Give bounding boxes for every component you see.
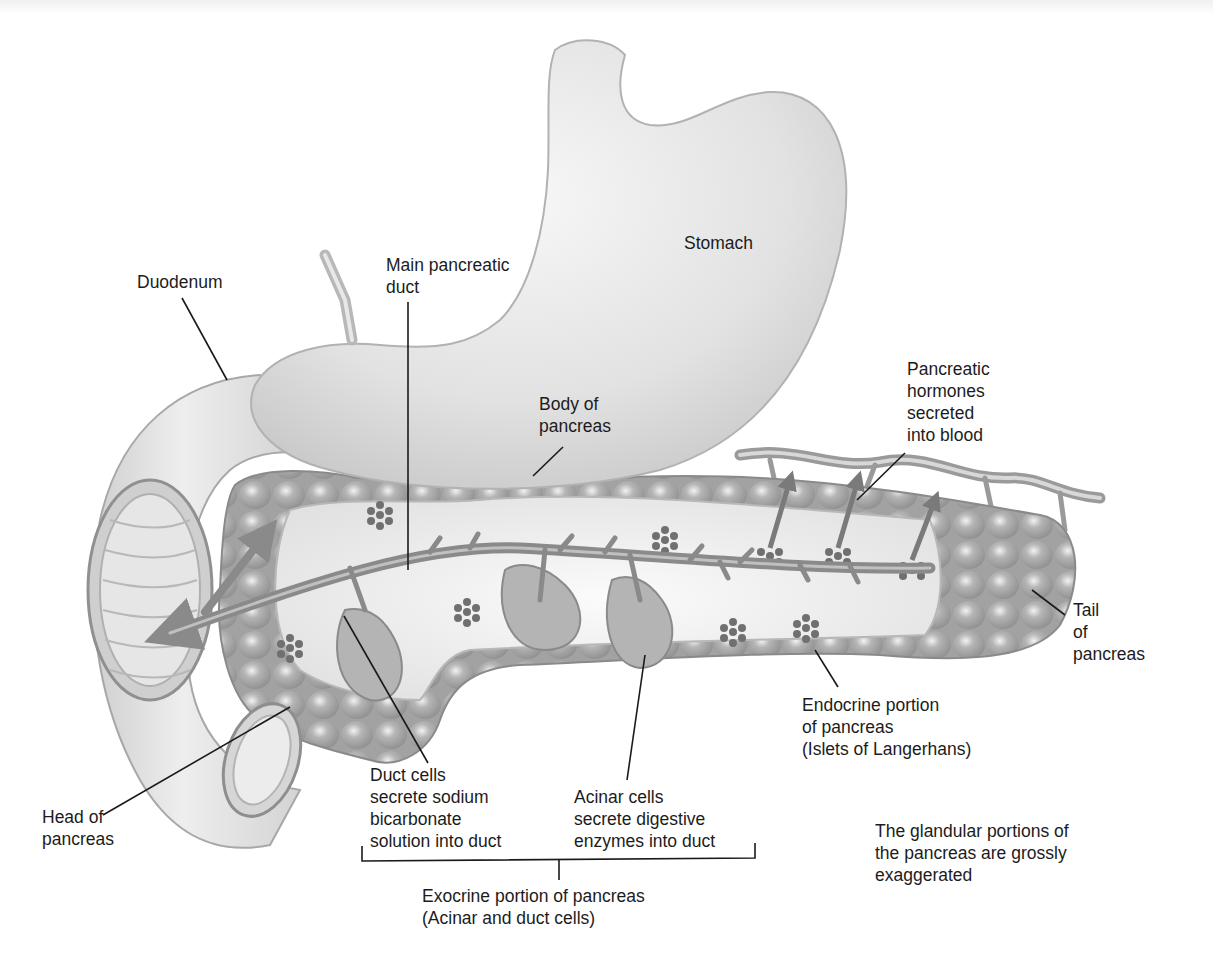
label-exocrine-portion: Exocrine portion of pancreas (Acinar and… <box>422 885 645 929</box>
label-endocrine-portion: Endocrine portion of pancreas (Islets of… <box>802 694 971 760</box>
label-pancreatic-hormones: Pancreatic hormones secreted into blood <box>907 358 990 446</box>
label-body-of-pancreas: Body of pancreas <box>539 393 611 437</box>
label-acinar-cells: Acinar cells secrete digestive enzymes i… <box>574 786 715 852</box>
label-duct-cells: Duct cells secrete sodium bicarbonate so… <box>370 764 501 852</box>
label-main-pancreatic-duct: Main pancreatic duct <box>386 254 510 298</box>
note-glandular-exaggerated: The glandular portions of the pancreas a… <box>875 820 1069 886</box>
label-tail-of-pancreas: Tail of pancreas <box>1073 599 1145 665</box>
leader-duodenum <box>182 298 227 380</box>
label-head-of-pancreas: Head of pancreas <box>42 806 114 850</box>
label-stomach: Stomach <box>684 232 753 254</box>
label-duodenum: Duodenum <box>137 271 223 293</box>
leader-endocrine <box>815 650 838 687</box>
leader-acinar-cells <box>627 655 645 780</box>
